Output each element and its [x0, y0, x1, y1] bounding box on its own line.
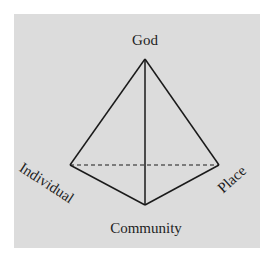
edge-place-community	[145, 165, 219, 205]
label-god: God	[132, 32, 158, 48]
label-individual: Individual	[17, 159, 77, 206]
edge-individual-community	[70, 165, 145, 205]
tetrahedron-diagram: God Individual Place Community	[0, 0, 268, 259]
label-community: Community	[110, 220, 182, 236]
edge-god-place	[145, 59, 219, 165]
edge-god-individual	[70, 59, 145, 165]
label-place: Place	[214, 162, 249, 196]
